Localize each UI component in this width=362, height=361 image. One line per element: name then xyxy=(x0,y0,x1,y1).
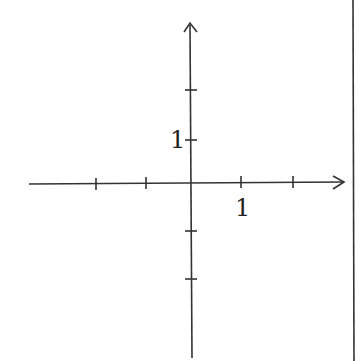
y-axis xyxy=(190,25,192,358)
coordinate-plane: 1 1 xyxy=(0,0,362,361)
axes-graphic xyxy=(0,0,362,361)
x-axis-label: 1 xyxy=(235,196,250,220)
y-axis-label: 1 xyxy=(170,128,185,152)
right-border-line xyxy=(353,0,354,361)
x-axis xyxy=(29,182,343,184)
